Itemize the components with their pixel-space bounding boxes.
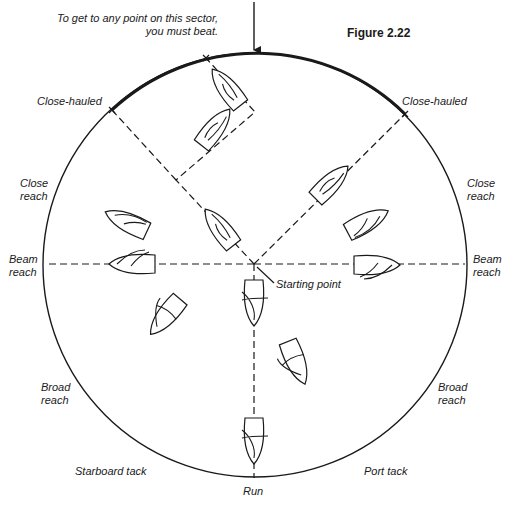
boat-run-2-icon (242, 418, 268, 464)
boat-close-hauled-right-icon (309, 159, 355, 205)
label-broad-reach-left: Broad reach (41, 381, 70, 407)
label-run: Run (243, 485, 263, 498)
label-close-hauled-left: Close-hauled (37, 95, 102, 108)
label-starboard-tack: Starboard tack (75, 465, 147, 478)
label-close-reach-left: Close reach (20, 177, 48, 203)
label-starting-point: Starting point (276, 278, 341, 291)
course-lines (45, 58, 465, 478)
boat-broad-reach-left-icon (138, 289, 187, 341)
label-close-reach-right: Close reach (467, 177, 495, 203)
close-hauled-left-line (112, 110, 176, 180)
label-beam-reach-left: Beam reach (9, 253, 38, 279)
caption: To get to any point on this sector, you … (8, 12, 218, 38)
boat-beat-2-icon (194, 103, 238, 151)
points-of-sail-diagram (0, 0, 511, 506)
boat-beam-reach-right-icon (354, 255, 400, 279)
boat-close-reach-left-icon (101, 203, 151, 240)
boat-close-reach-right-icon (343, 202, 393, 241)
boat-beat-3-icon (198, 203, 242, 251)
figure-title: Figure 2.22 (347, 26, 410, 40)
label-broad-reach-right: Broad reach (438, 381, 467, 407)
caption-line-2: you must beat. (8, 25, 218, 38)
label-beam-reach-right: Beam reach (473, 253, 502, 279)
boat-broad-reach-right-icon (273, 338, 314, 390)
boat-beam-reach-left-icon (109, 250, 155, 274)
course-circle (43, 53, 467, 477)
boat-run-1-icon (242, 280, 268, 326)
label-close-hauled-right: Close-hauled (402, 95, 467, 108)
beat-sector-arc (112, 53, 405, 114)
label-port-tack: Port tack (364, 465, 407, 478)
sector-ticks (109, 55, 408, 117)
caption-line-1: To get to any point on this sector, (8, 12, 218, 25)
boat-beat-1-icon (205, 63, 249, 111)
